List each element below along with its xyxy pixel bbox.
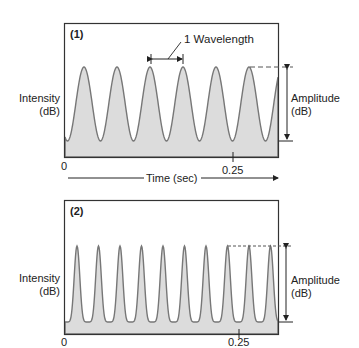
panel-2-plot [65,201,294,339]
panel-1-tick-label-025: 0.25 [222,164,243,177]
panel-1-plot [65,24,294,179]
panel-2-ylabel-line2: (dB) [0,285,60,298]
panel-2-tick-label-025: 0.25 [228,336,249,348]
panel-2-waveform [65,246,278,334]
panel-1-ylabel-line1: Intensity [0,92,60,105]
panel-1-ylabel-line2: (dB) [0,105,60,118]
wavelength-leader [168,42,181,59]
panel-1-amplitude-line2: (dB) [291,105,312,118]
panel-1-label: (1) [70,28,83,41]
panel-1-amplitude-line1: Amplitude [291,92,340,105]
panel-2-ylabel-line1: Intensity [0,272,60,285]
wavelength-label: 1 Wavelength [184,33,254,46]
panel-1-tick-label-0: 0 [61,160,67,173]
time-axis-label: Time (sec) [146,172,198,185]
panel-2-amplitude-line2: (dB) [291,287,312,300]
panel-1-waveform [65,67,278,157]
panel-2-amplitude-line1: Amplitude [291,274,340,287]
panel-2-label: (2) [70,205,83,218]
panel-2-tick-label-0: 0 [61,336,67,348]
